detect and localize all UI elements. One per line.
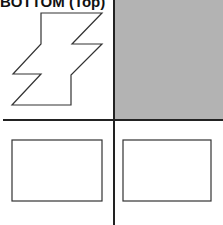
bottom-right-rectangle: [123, 140, 211, 201]
bottom-left-rectangle: [12, 140, 102, 201]
zigzag-shape: [12, 13, 102, 105]
gray-quadrant: [114, 0, 223, 120]
diagram-canvas: [0, 0, 223, 225]
